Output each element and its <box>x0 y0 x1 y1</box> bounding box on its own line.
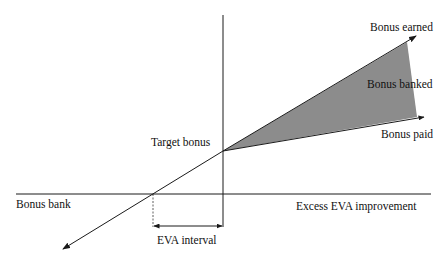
bonus-banked-label: Bonus banked <box>367 79 432 91</box>
bonus-paid-label: Bonus paid <box>381 129 433 141</box>
x-axis-label: Excess EVA improvement <box>296 201 417 213</box>
bonus-bank-label: Bonus bank <box>16 199 71 211</box>
eva-interval-label: EVA interval <box>157 235 217 247</box>
bonus-earned-label: Bonus earned <box>370 22 433 34</box>
diagram-canvas <box>0 0 447 262</box>
target-bonus-label: Target bonus <box>151 137 210 149</box>
